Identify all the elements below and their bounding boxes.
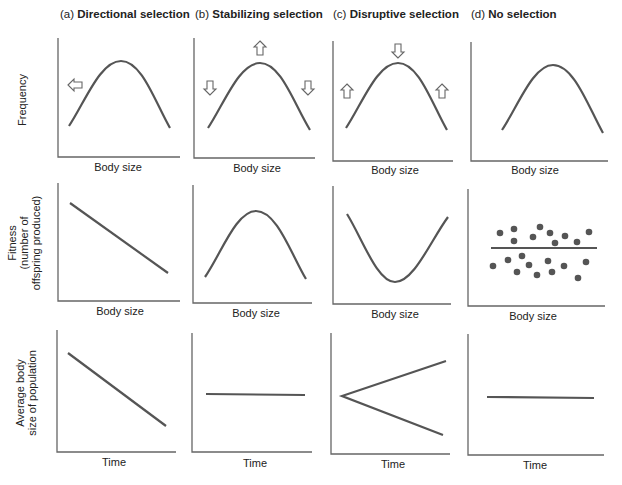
fitness-scatter-points: [490, 224, 593, 282]
avg-lines-c: [342, 361, 446, 435]
selection-diagram: [0, 0, 622, 485]
fitness-u-c: [347, 214, 448, 282]
bell-curve-d: [502, 65, 603, 133]
arrow-up-icon: [436, 84, 448, 98]
avg-line-a: [68, 353, 166, 426]
arrow-down-icon: [204, 81, 216, 95]
arrow-down-icon: [392, 44, 404, 58]
arrow-up-icon: [341, 84, 353, 98]
arrow-left-icon: [68, 79, 82, 91]
axes-row-1: [58, 38, 608, 161]
fitness-line-a: [70, 203, 168, 273]
frequency-curves: [69, 61, 603, 133]
bell-curve-a: [69, 61, 170, 128]
avg-line-b: [206, 394, 305, 395]
fitness-bell-b: [205, 211, 306, 279]
arrow-down-icon: [302, 81, 314, 95]
bell-curve-b: [208, 63, 310, 130]
avg-line-d: [487, 397, 594, 398]
arrow-up-icon: [254, 41, 266, 55]
axes-row-2: [58, 183, 605, 306]
bell-curve-c: [346, 63, 447, 130]
axes-row-3: [57, 330, 604, 455]
